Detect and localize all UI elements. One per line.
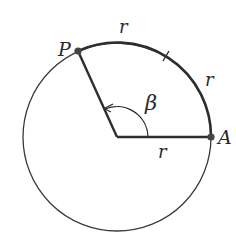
- label-radius-r: r: [158, 141, 168, 162]
- radian-circle-diagram: P A β r r r: [0, 0, 236, 235]
- point-P: [74, 47, 81, 54]
- label-A: A: [216, 126, 232, 148]
- radius-OP: [78, 51, 117, 137]
- label-arc-r-right: r: [205, 69, 215, 90]
- point-A: [207, 133, 214, 140]
- label-arc-r-top: r: [119, 16, 129, 37]
- label-beta: β: [144, 91, 157, 115]
- angle-beta-arc: [105, 107, 148, 137]
- label-P: P: [57, 38, 72, 60]
